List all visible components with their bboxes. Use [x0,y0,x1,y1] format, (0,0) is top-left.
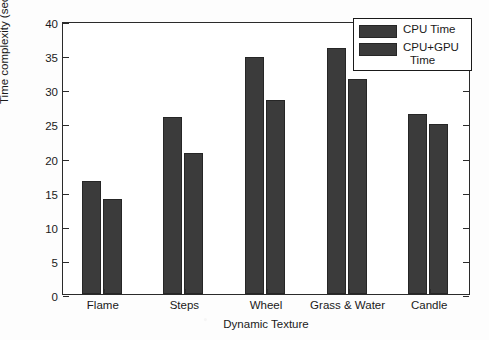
x-category-label-3: Grass & Water [310,299,385,311]
y-tick-30: 30 [63,91,69,92]
bar-wheel-cpu-gpu [266,100,285,295]
legend-entry-cpu-gpu-time: CPU+GPU Time [359,41,466,66]
bar-candle-cpu [408,114,427,294]
x-tick-4 [430,289,431,294]
y-tick-label-15: 15 [45,187,58,203]
y-axis-label: Time complexity (sec) [0,0,10,104]
legend-entry-cpu-time: CPU Time [359,23,466,38]
legend-label-cpu-gpu-time-line1: CPU+GPU [403,41,459,53]
y-tick-25: 25 [63,125,69,126]
y-axis-label-text: Time complexity (sec) [0,0,10,104]
bar-grass-water-cpu [327,48,346,294]
x-tick-2 [267,289,268,294]
y-tick-label-30: 30 [45,84,58,100]
bar-steps-cpu [163,117,182,294]
y-tick-label-5: 5 [52,255,58,271]
y-tick-15 [463,194,469,195]
bar-grass-water-cpu-gpu [348,79,367,294]
y-tick-40: 40 [63,23,69,24]
bar-wheel-cpu [245,57,264,295]
y-tick-label-35: 35 [45,50,58,66]
y-tick-15: 15 [63,194,69,195]
y-tick-label-0: 0 [52,289,58,305]
y-tick-0: 0 [63,296,69,297]
y-tick-20: 20 [63,160,69,161]
y-tick-5 [463,262,469,263]
y-tick-label-10: 10 [45,221,58,237]
y-tick-5: 5 [63,262,69,263]
bar-chart-figure: Time complexity (sec) 0510152025303540 F… [0,0,489,340]
legend-swatch-cpu-gpu-time [359,43,397,56]
legend-swatch-cpu-time [359,25,397,38]
legend-label-cpu-gpu-time-line2: Time [403,54,459,67]
y-tick-20 [463,160,469,161]
x-tick-0 [104,289,105,294]
y-tick-label-40: 40 [45,16,58,32]
x-tick-1 [185,289,186,294]
y-tick-30 [463,91,469,92]
bar-candle-cpu-gpu [429,124,448,294]
y-tick-25 [463,125,469,126]
y-tick-0 [463,296,469,297]
y-tick-label-20: 20 [45,153,58,169]
bar-flame-cpu [82,181,101,294]
legend-label-cpu-time: CPU Time [403,23,455,36]
y-tick-35: 35 [63,57,69,58]
y-tick-label-25: 25 [45,118,58,134]
chart-legend: CPU Time CPU+GPU Time [353,18,472,71]
y-tick-10: 10 [63,228,69,229]
x-category-label-4: Candle [411,299,447,311]
bar-steps-cpu-gpu [184,153,203,294]
legend-label-cpu-gpu-time: CPU+GPU Time [403,41,459,66]
x-category-label-1: Steps [170,299,199,311]
x-tick-3 [349,289,350,294]
x-axis-label: Dynamic Texture [62,318,470,330]
bar-flame-cpu-gpu [103,199,122,294]
y-tick-10 [463,228,469,229]
x-category-label-0: Flame [87,299,119,311]
x-category-label-2: Wheel [250,299,283,311]
